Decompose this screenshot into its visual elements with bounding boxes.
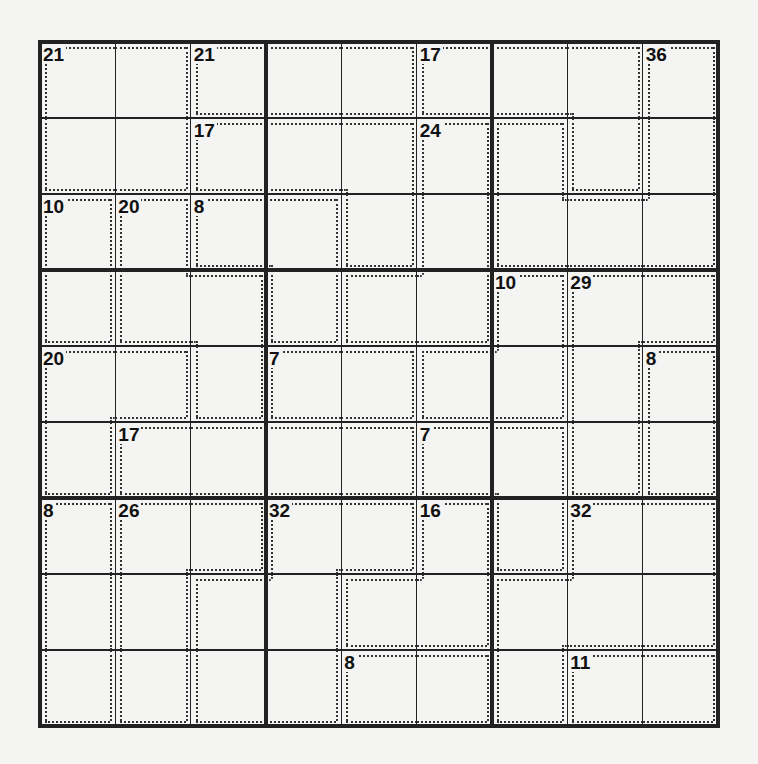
cage-border	[341, 503, 411, 505]
cage-border	[417, 275, 422, 277]
cell-r8c1[interactable]	[40, 574, 115, 650]
cell-r6c8[interactable]	[567, 422, 642, 498]
cell-r5c6[interactable]	[417, 346, 492, 422]
cage-border	[196, 113, 266, 115]
cage-border	[572, 346, 574, 422]
cell-r6c9[interactable]	[643, 422, 718, 498]
cage-sum-label: 8	[344, 653, 357, 672]
cell-r5c3[interactable]	[191, 346, 266, 422]
killer-sudoku-board: 2121173617241020810292078177826321632811	[40, 42, 718, 726]
cage-sum-label: 32	[269, 501, 292, 520]
cage-border	[341, 113, 411, 115]
cage-border	[45, 721, 110, 723]
cage-border	[648, 118, 650, 194]
cell-r7c7[interactable]	[492, 498, 567, 574]
cell-r6c1[interactable]	[40, 422, 115, 498]
cage-border	[713, 351, 715, 422]
cell-r9c2[interactable]	[115, 650, 190, 726]
cage-sum-label: 20	[118, 197, 141, 216]
cage-border	[572, 493, 637, 495]
cell-r1c8[interactable]	[567, 42, 642, 118]
cell-r6c5[interactable]	[341, 422, 416, 498]
cage-border	[196, 265, 266, 267]
cage-border	[422, 113, 492, 115]
grid-line	[115, 40, 117, 728]
cell-r8c7[interactable]	[492, 574, 567, 650]
cell-r2c8[interactable]	[567, 118, 642, 194]
cage-border	[638, 422, 640, 493]
cell-r2c4[interactable]	[266, 118, 341, 194]
cell-r5c5[interactable]	[341, 346, 416, 422]
cell-r7c3[interactable]	[191, 498, 266, 574]
cage-border	[417, 579, 422, 581]
cell-r5c8[interactable]	[567, 346, 642, 422]
cell-r8c6[interactable]	[417, 574, 492, 650]
cage-border	[417, 645, 487, 647]
cell-r9c9[interactable]	[643, 650, 718, 726]
cell-r8c2[interactable]	[115, 574, 190, 650]
cell-r8c9[interactable]	[643, 574, 718, 650]
cage-border	[261, 346, 263, 417]
box-divider	[264, 40, 268, 728]
cell-r1c4[interactable]	[266, 42, 341, 118]
cell-r5c7[interactable]	[492, 346, 567, 422]
cell-r5c2[interactable]	[115, 346, 190, 422]
cell-r7c5[interactable]	[341, 498, 416, 574]
cell-r3c4[interactable]	[266, 194, 341, 270]
cell-r4c4[interactable]	[266, 270, 341, 346]
cell-r4c6[interactable]	[417, 270, 492, 346]
cell-r4c3[interactable]	[191, 270, 266, 346]
box-divider	[38, 40, 720, 44]
cage-border	[713, 194, 715, 265]
cage-border	[422, 194, 424, 270]
cell-r8c3[interactable]	[191, 574, 266, 650]
cell-r6c3[interactable]	[191, 422, 266, 498]
cage-border	[186, 47, 188, 118]
cell-r4c9[interactable]	[643, 270, 718, 346]
cell-r4c5[interactable]	[341, 270, 416, 346]
cage-border	[648, 493, 713, 495]
cell-r2c7[interactable]	[492, 118, 567, 194]
cell-r1c7[interactable]	[492, 42, 567, 118]
cell-r9c1[interactable]	[40, 650, 115, 726]
cage-border	[643, 503, 713, 505]
cell-r9c4[interactable]	[266, 650, 341, 726]
cage-border	[562, 498, 564, 569]
cage-border	[497, 569, 562, 571]
cell-r3c5[interactable]	[341, 194, 416, 270]
cage-border	[266, 123, 341, 125]
cage-border	[336, 574, 338, 650]
cage-sum-label: 36	[646, 45, 669, 64]
cell-r6c7[interactable]	[492, 422, 567, 498]
cage-border	[417, 341, 487, 343]
cage-border	[115, 417, 185, 419]
cage-border	[261, 503, 263, 569]
cell-r9c7[interactable]	[492, 650, 567, 726]
cell-r4c1[interactable]	[40, 270, 115, 346]
cell-r8c8[interactable]	[567, 574, 642, 650]
cell-r2c1[interactable]	[40, 118, 115, 194]
cage-border	[412, 351, 414, 417]
cage-sum-label: 11	[570, 653, 592, 672]
cage-border	[266, 189, 341, 191]
cell-r2c5[interactable]	[341, 118, 416, 194]
cell-r1c5[interactable]	[341, 42, 416, 118]
cell-r2c2[interactable]	[115, 118, 190, 194]
cell-r6c4[interactable]	[266, 422, 341, 498]
cell-r3c6[interactable]	[417, 194, 492, 270]
cell-r3c9[interactable]	[643, 194, 718, 270]
cell-r3c8[interactable]	[567, 194, 642, 270]
cell-r2c9[interactable]	[643, 118, 718, 194]
cell-r7c9[interactable]	[643, 498, 718, 574]
cell-r9c3[interactable]	[191, 650, 266, 726]
cage-border	[110, 503, 112, 574]
cell-r1c2[interactable]	[115, 42, 190, 118]
grid-line	[416, 40, 418, 728]
cell-r8c4[interactable]	[266, 574, 341, 650]
cage-border	[191, 503, 261, 505]
cell-r3c7[interactable]	[492, 194, 567, 270]
cell-r8c5[interactable]	[341, 574, 416, 650]
cell-r9c6[interactable]	[417, 650, 492, 726]
cage-border	[186, 199, 188, 270]
cell-r4c2[interactable]	[115, 270, 190, 346]
